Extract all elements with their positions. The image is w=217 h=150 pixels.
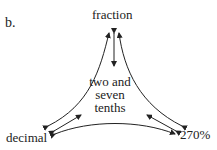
arrow-decimal-percent: [55, 124, 175, 135]
node-decimal: decimal: [6, 131, 47, 144]
arrow-decimal-center: [54, 115, 81, 131]
panel-label: b.: [5, 16, 16, 29]
center-value: two and seven tenths: [82, 75, 138, 114]
arrow-percent-center: [147, 115, 176, 131]
node-percent: 270%: [180, 128, 210, 141]
node-fraction: fraction: [92, 8, 132, 21]
center-line-3: tenths: [82, 101, 138, 114]
